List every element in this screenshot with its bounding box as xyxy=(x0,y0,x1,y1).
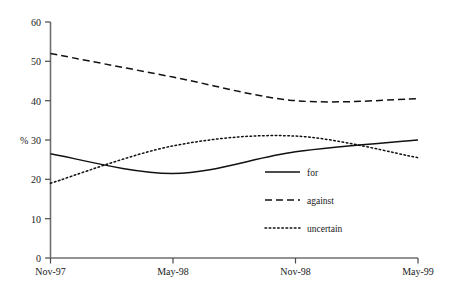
y-tick-label: 50 xyxy=(31,56,41,67)
line-chart: 60 50 40 30 20 10 0 % Nov-97 May-98 Nov-… xyxy=(0,0,455,289)
x-axis-tick-labels: Nov-97 May-98 Nov-98 May-99 xyxy=(35,266,434,277)
series-line-against xyxy=(51,53,419,101)
x-tick-label: Nov-98 xyxy=(280,266,311,277)
y-tick-label: 10 xyxy=(31,214,41,225)
legend-item-uncertain: uncertain xyxy=(265,224,343,234)
y-tick-label: 0 xyxy=(36,253,41,264)
legend-item-against: against xyxy=(265,196,334,206)
y-axis-ticks xyxy=(45,22,51,258)
y-tick-label: 20 xyxy=(31,174,41,185)
y-tick-label: 40 xyxy=(31,96,41,107)
chart-legend: for against uncertain xyxy=(265,168,343,234)
chart-plot-area: 60 50 40 30 20 10 0 % Nov-97 May-98 Nov-… xyxy=(0,0,455,289)
legend-label-against: against xyxy=(307,196,334,206)
y-tick-label: 60 xyxy=(31,17,41,28)
x-tick-label: Nov-97 xyxy=(35,266,66,277)
legend-item-for: for xyxy=(265,168,319,178)
series-line-for xyxy=(51,140,419,173)
legend-label-for: for xyxy=(307,168,319,178)
y-axis-title: % xyxy=(20,135,28,146)
x-tick-label: May-99 xyxy=(402,266,434,277)
x-tick-label: May-98 xyxy=(157,266,189,277)
y-tick-label: 30 xyxy=(31,135,41,146)
legend-label-uncertain: uncertain xyxy=(307,224,343,234)
series-line-uncertain xyxy=(51,136,419,184)
x-axis-ticks xyxy=(51,258,419,264)
y-axis-tick-labels: 60 50 40 30 20 10 0 xyxy=(31,17,41,264)
